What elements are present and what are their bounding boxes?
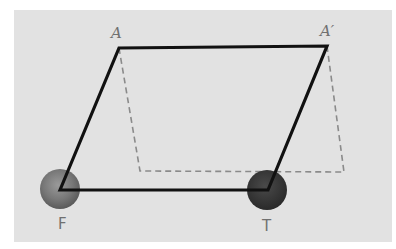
shear-diagram (0, 0, 396, 249)
label-f: F (58, 217, 67, 232)
label-a-prime: A′ (320, 24, 334, 39)
label-a: A (111, 26, 122, 41)
label-t: T (262, 219, 271, 234)
solid-parallelogram (60, 46, 327, 190)
dashed-outline (119, 46, 344, 172)
